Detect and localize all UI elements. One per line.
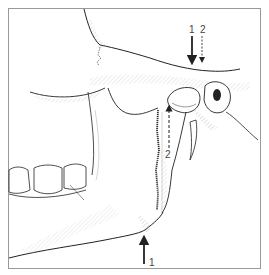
figure: 1 2 2 1	[0, 0, 269, 275]
label-arrow-2-ramus: 2	[165, 150, 171, 160]
skull-contour	[84, 9, 240, 71]
label-arrow-2-top: 2	[200, 25, 206, 35]
ramus-fracture-line	[156, 110, 159, 210]
ear-canal	[213, 89, 221, 101]
frame	[9, 9, 261, 269]
jaw-illustration	[0, 0, 269, 275]
styloid-process	[190, 120, 197, 160]
lower-teeth	[9, 164, 86, 194]
label-arrow-1-bottom: 1	[149, 258, 155, 268]
skull-fracture-line	[97, 47, 101, 66]
label-arrow-1-top: 1	[189, 25, 195, 35]
condyle	[168, 87, 200, 112]
coronoid-process	[108, 88, 158, 114]
